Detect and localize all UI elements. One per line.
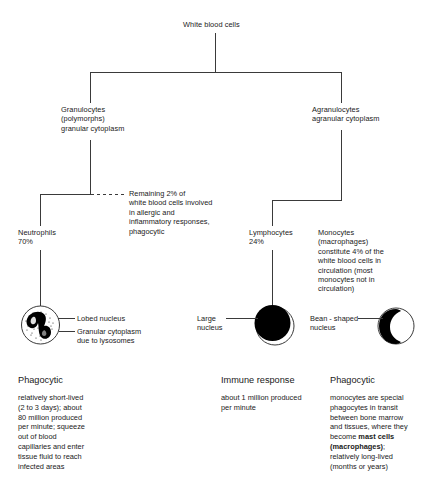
summary-monocyte-title: Phagocytic bbox=[330, 375, 438, 386]
node-root-white-blood-cells: White blood cells bbox=[183, 20, 303, 29]
summary-neutrophil: Phagocytic relatively short-lived (2 to … bbox=[18, 375, 123, 471]
node-neutrophils: Neutrophils 70% bbox=[18, 228, 118, 247]
neutrophil-leader-lines bbox=[58, 319, 75, 332]
diagram-page: White blood cells Granulocytes (polymorp… bbox=[0, 0, 442, 491]
label-granular-cytoplasm: Granular cytoplasm due to lysosomes bbox=[77, 327, 187, 346]
summary-lymphocyte-title: Immune response bbox=[221, 375, 326, 386]
node-monocytes: Monocytes (macrophages) constitute 4% of… bbox=[318, 228, 440, 294]
summary-neutrophil-body: relatively short-lived (2 to 3 days); ab… bbox=[18, 393, 123, 471]
summary-monocyte-body: monocytes are special phagocytes in tran… bbox=[330, 393, 438, 471]
neutrophil-cell-icon bbox=[22, 306, 60, 344]
summary-neutrophil-title: Phagocytic bbox=[18, 375, 123, 386]
label-large-nucleus: Large nucleus bbox=[197, 314, 237, 333]
label-bean-shaped-nucleus: Bean - shaped nucleus bbox=[310, 314, 380, 333]
label-lobed-nucleus: Lobed nucleus bbox=[77, 314, 177, 323]
summary-monocyte: Phagocytic monocytes are special phagocy… bbox=[330, 375, 438, 471]
node-agranulocytes: Agranulocytes agranular cytoplasm bbox=[312, 105, 442, 124]
summary-lymphocyte-body: about 1 million produced per minute bbox=[221, 393, 326, 413]
node-granulocytes: Granulocytes (polymorphs) granular cytop… bbox=[61, 105, 191, 133]
callout-remaining-granulocytes: Remaining 2% of white blood cells involv… bbox=[129, 189, 264, 236]
lymphocyte-cell-icon bbox=[255, 305, 295, 345]
summary-lymphocyte: Immune response about 1 million produced… bbox=[221, 375, 326, 413]
monocyte-cell-icon bbox=[378, 308, 414, 344]
